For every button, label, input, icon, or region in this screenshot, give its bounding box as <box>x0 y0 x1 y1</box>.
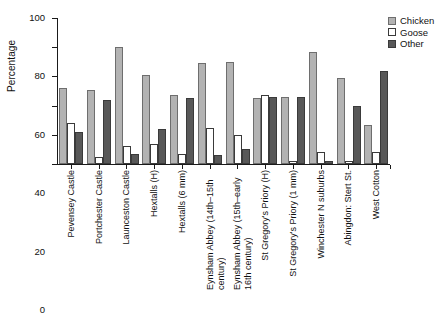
bar-group <box>87 18 111 164</box>
bar-goose <box>95 157 103 164</box>
bar-chicken <box>142 75 150 164</box>
x-tick <box>210 165 211 169</box>
bar-other <box>214 155 222 164</box>
y-tick-label-40: 40 <box>34 188 45 198</box>
bar-other <box>75 132 83 164</box>
x-axis-line <box>57 164 390 165</box>
bar-goose <box>150 144 158 164</box>
bar-group <box>115 18 139 164</box>
bar-other <box>103 100 111 164</box>
x-tick <box>376 165 377 169</box>
bar-other <box>297 97 305 164</box>
bar-group <box>309 18 333 164</box>
chart-figure: Percentage 020406080100 Pevensey CastleP… <box>0 0 444 314</box>
y-tick-label-60: 60 <box>34 130 45 140</box>
bar-chicken <box>115 47 123 164</box>
x-axis-label: Winchester N suburbs <box>316 170 327 259</box>
x-tick <box>99 165 100 169</box>
x-tick <box>71 165 72 169</box>
bar-chicken <box>281 97 289 164</box>
x-axis-label: Pevensey Castle <box>66 170 77 238</box>
x-tick <box>182 165 183 169</box>
x-axis-label: West Cotton <box>371 170 382 219</box>
y-tick-20: 20 <box>52 135 57 136</box>
bar-goose <box>67 123 75 164</box>
y-tick-label-20: 20 <box>34 247 45 257</box>
plot-area: 020406080100 <box>57 18 390 165</box>
x-axis-label: Hextalls (6 mm) <box>177 170 188 233</box>
bar-other <box>353 106 361 164</box>
y-tick-40: 40 <box>52 106 57 107</box>
bar-goose <box>261 95 269 164</box>
x-axis-label: Portchester Castle <box>94 170 105 244</box>
y-tick-0: 0 <box>52 164 57 165</box>
x-tick <box>126 165 127 169</box>
legend-swatch-other <box>388 40 396 48</box>
bar-chicken <box>364 125 372 164</box>
bar-goose <box>345 161 353 164</box>
bar-group <box>198 18 222 164</box>
bar-chicken <box>309 52 317 164</box>
y-tick-label-100: 100 <box>29 13 45 23</box>
x-axis-label: St Gregory's Priory (H) <box>260 170 271 261</box>
x-axis-label: Hextalls (H) <box>149 170 160 217</box>
bar-other <box>131 154 139 164</box>
chart-legend: Chicken Goose Other <box>388 16 434 49</box>
x-axis-labels: Pevensey CastlePortchester CastleLaunces… <box>57 170 390 290</box>
bar-goose <box>123 146 131 164</box>
legend-label-chicken: Chicken <box>400 16 434 26</box>
bar-goose <box>372 152 380 164</box>
x-axis-label: Eynsham Abbey (14th–15th century) <box>205 170 226 290</box>
bar-chicken <box>337 78 345 164</box>
x-tick <box>390 165 391 169</box>
bar-goose <box>234 135 242 164</box>
y-tick-label-80: 80 <box>34 72 45 82</box>
bar-chicken <box>226 62 234 164</box>
bar-group <box>226 18 250 164</box>
x-axis-label: St Gregory's Priory (1 mm) <box>288 170 299 277</box>
bar-chicken <box>59 88 67 164</box>
x-axis-label: Abingdon: Stert St. <box>343 170 354 246</box>
y-tick-100: 100 <box>52 18 57 19</box>
x-tick <box>265 165 266 169</box>
bar-other <box>186 98 194 164</box>
bar-chicken <box>198 63 206 164</box>
bar-group <box>364 18 388 164</box>
bar-group <box>170 18 194 164</box>
bar-group <box>142 18 166 164</box>
legend-swatch-goose <box>388 28 396 36</box>
legend-item-goose: Goose <box>388 28 434 38</box>
y-tick-label-0: 0 <box>40 305 45 314</box>
bar-chicken <box>170 95 178 164</box>
bar-other <box>269 97 277 164</box>
legend-swatch-chicken <box>388 17 396 25</box>
y-tick-80: 80 <box>52 47 57 48</box>
bar-other <box>380 71 388 164</box>
y-axis-line <box>57 18 58 165</box>
x-axis-label: Launceston Castle <box>121 170 132 245</box>
x-axis-label: Eynsham Abbey (15th–early 16th century) <box>232 170 253 290</box>
bar-group <box>281 18 305 164</box>
legend-item-chicken: Chicken <box>388 16 434 26</box>
y-tick-60: 60 <box>52 76 57 77</box>
bar-group <box>253 18 277 164</box>
bar-goose <box>289 161 297 164</box>
bar-other <box>242 149 250 164</box>
legend-item-other: Other <box>388 39 434 49</box>
bar-goose <box>317 152 325 164</box>
bar-goose <box>206 128 214 165</box>
bar-goose <box>178 154 186 164</box>
bar-chicken <box>87 90 95 164</box>
y-axis-label: Percentage <box>6 40 17 92</box>
bar-group <box>59 18 83 164</box>
x-tick <box>293 165 294 169</box>
x-tick <box>348 165 349 169</box>
bar-other <box>325 161 333 164</box>
bar-group <box>337 18 361 164</box>
bar-chicken <box>253 98 261 164</box>
legend-label-goose: Goose <box>400 28 428 38</box>
x-tick <box>321 165 322 169</box>
bar-other <box>158 129 166 164</box>
legend-label-other: Other <box>400 39 424 49</box>
x-tick <box>237 165 238 169</box>
